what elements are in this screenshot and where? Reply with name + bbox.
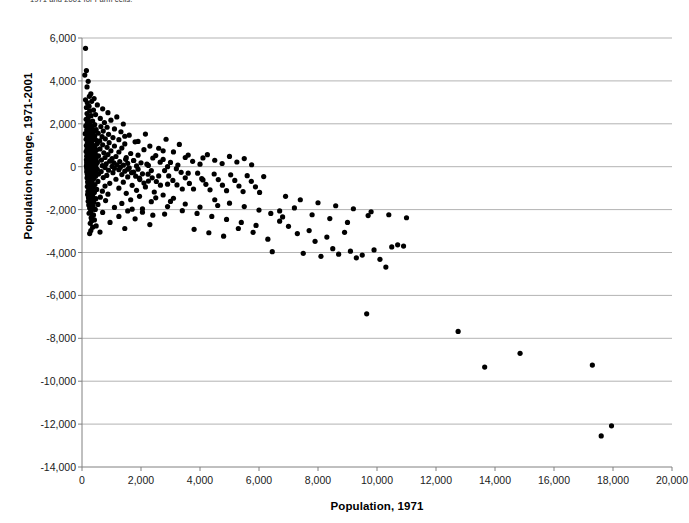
data-point: [171, 149, 176, 154]
data-point: [119, 172, 124, 177]
data-point: [174, 182, 179, 187]
data-point: [194, 211, 199, 216]
data-point: [360, 252, 365, 257]
data-point: [147, 144, 152, 149]
data-point: [383, 264, 388, 269]
data-point: [156, 146, 161, 151]
data-point: [128, 151, 133, 156]
data-point: [138, 160, 143, 165]
data-point: [130, 183, 135, 188]
data-point: [312, 239, 317, 244]
data-point: [146, 163, 151, 168]
data-point: [609, 423, 614, 428]
data-series-farm-cells: [82, 46, 614, 439]
data-point: [298, 197, 303, 202]
data-point: [135, 167, 140, 172]
data-point: [137, 177, 142, 182]
data-point: [482, 364, 487, 369]
data-point: [100, 189, 105, 194]
data-point: [152, 189, 157, 194]
data-point: [190, 159, 195, 164]
data-point: [270, 249, 275, 254]
data-point: [135, 139, 140, 144]
data-point: [145, 172, 150, 177]
data-point: [216, 177, 221, 182]
data-point: [249, 162, 254, 167]
plot-area: [0, 0, 689, 523]
data-point: [116, 186, 121, 191]
data-point: [253, 223, 258, 228]
data-point: [175, 162, 180, 167]
data-point: [107, 140, 112, 145]
data-point: [119, 201, 124, 206]
data-point: [104, 145, 109, 150]
data-point: [103, 198, 108, 203]
data-point: [195, 171, 200, 176]
data-point: [517, 351, 522, 356]
data-point: [221, 234, 226, 239]
data-point: [98, 195, 103, 200]
data-point: [280, 214, 285, 219]
data-point: [163, 137, 168, 142]
data-point: [307, 228, 312, 233]
data-point: [212, 158, 217, 163]
data-point: [121, 180, 126, 185]
data-point: [179, 170, 184, 175]
data-point: [277, 208, 282, 213]
data-point: [295, 231, 300, 236]
data-point: [220, 183, 225, 188]
scatter-chart: Population change, 1971-2001 Population,…: [0, 0, 689, 523]
data-point: [105, 192, 110, 197]
data-point: [170, 178, 175, 183]
data-point: [84, 84, 89, 89]
data-point: [268, 211, 273, 216]
data-point: [224, 217, 229, 222]
data-point: [106, 168, 111, 173]
data-point: [242, 204, 247, 209]
data-point: [116, 149, 121, 154]
data-point: [130, 207, 135, 212]
data-point: [348, 249, 353, 254]
data-point: [149, 199, 154, 204]
data-point: [162, 212, 167, 217]
data-point: [369, 209, 374, 214]
data-point: [205, 152, 210, 157]
data-point: [386, 212, 391, 217]
data-point: [98, 116, 103, 121]
data-point: [97, 230, 102, 235]
data-point: [253, 184, 258, 189]
data-point: [180, 186, 185, 191]
data-point: [118, 129, 123, 134]
data-point: [153, 195, 158, 200]
data-point: [590, 363, 595, 368]
data-point: [84, 68, 89, 73]
data-point: [168, 160, 173, 165]
data-point: [153, 153, 158, 158]
data-point: [256, 207, 261, 212]
data-point: [228, 172, 233, 177]
data-point: [140, 210, 145, 215]
data-point: [100, 106, 105, 111]
data-point: [87, 231, 92, 236]
data-point: [371, 247, 376, 252]
data-point: [140, 171, 145, 176]
data-point: [200, 155, 205, 160]
data-point: [83, 46, 88, 51]
data-point: [95, 202, 100, 207]
data-point: [232, 178, 237, 183]
data-point: [245, 173, 250, 178]
data-point: [333, 203, 338, 208]
data-point: [183, 201, 188, 206]
data-point: [124, 191, 129, 196]
data-point: [239, 220, 244, 225]
data-point: [342, 230, 347, 235]
data-point: [121, 121, 126, 126]
data-point: [401, 243, 406, 248]
data-point: [351, 206, 356, 211]
data-point: [257, 190, 262, 195]
data-point: [95, 102, 100, 107]
data-point: [129, 170, 134, 175]
data-point: [277, 219, 282, 224]
data-point: [251, 230, 256, 235]
data-point: [89, 99, 94, 104]
